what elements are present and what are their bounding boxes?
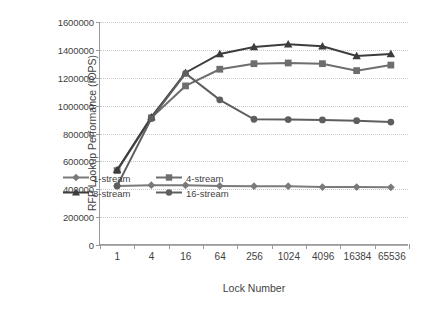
x-axis-tick-label: 16 [180,251,191,262]
diamond-marker [72,174,79,181]
x-axis-title: Lock Number [100,282,408,294]
diamond-marker [319,183,327,191]
x-axis-tick-mark [272,244,273,249]
square-marker [353,67,360,74]
x-axis-tick-mark [375,244,376,249]
x-axis-tick-label: 16384 [344,251,372,262]
diamond-icon [62,172,90,185]
y-axis-tick-label: 1600000 [58,17,94,28]
x-axis-tick-mark [134,244,135,249]
square-marker [387,62,394,69]
square-marker [251,60,258,67]
x-axis-tick-label: 65536 [378,251,406,262]
y-axis-tick-label: 200000 [63,212,94,223]
diamond-marker [387,183,395,191]
x-axis-tick-label: 4 [149,251,155,262]
legend-item-16-stream[interactable]: 16-stream [155,187,248,200]
legend-item-8-stream[interactable]: 8-stream [62,187,155,200]
series-line [117,73,391,186]
x-axis-tick-mark [306,244,307,249]
circle-marker [216,96,223,103]
y-axis-tick-label: 1400000 [58,44,94,55]
legend-item-4-stream[interactable]: 4-stream [155,172,248,185]
x-axis-tick-mark [100,244,101,249]
chart-container: 0200000400000600000800000100000012000001… [0,0,428,314]
legend-label: 8-stream [93,188,130,199]
x-axis-tick-mark [409,244,410,249]
circle-marker [148,115,155,122]
circle-marker [353,117,360,124]
square-marker [166,174,172,180]
x-axis-tick-mark [169,244,170,249]
circle-marker [251,116,258,123]
circle-marker [319,117,326,124]
diamond-marker [250,182,258,190]
diamond-marker [284,182,292,190]
plot-area: 0200000400000600000800000100000012000001… [99,22,408,245]
x-axis-tick-mark [203,244,204,249]
square-icon [155,172,183,185]
x-axis-tick-mark [340,244,341,249]
legend-item-1-stream[interactable]: 1-stream [62,172,155,185]
circle-marker [166,189,172,195]
legend-label: 4-stream [186,173,223,184]
series-plot [100,22,408,244]
x-axis-tick-label: 64 [215,251,226,262]
square-marker [319,60,326,67]
x-axis-tick-mark [237,244,238,249]
x-axis-tick-label: 256 [246,251,263,262]
diamond-marker [353,183,361,191]
chart-legend: 1-stream4-stream8-stream16-stream [62,171,248,201]
gridline [100,245,408,246]
circle-icon [155,187,183,200]
square-marker [182,83,189,90]
circle-marker [387,119,394,126]
x-axis-tick-label: 4096 [312,251,334,262]
square-marker [216,66,223,73]
circle-marker [182,70,189,77]
x-axis-tick-label: 1024 [278,251,300,262]
circle-marker [285,116,292,123]
square-marker [285,60,292,67]
y-axis-tick-label: 0 [89,240,94,251]
legend-label: 16-stream [186,188,229,199]
legend-label: 1-stream [93,173,130,184]
x-axis-tick-label: 1 [114,251,120,262]
triangle-icon [62,187,90,200]
series-8-stream [113,40,395,173]
